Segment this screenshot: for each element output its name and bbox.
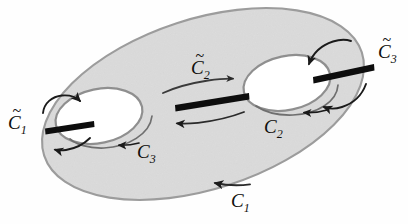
label-c-tilde-3-accent: ~ <box>383 32 392 48</box>
label-c-tilde-2-accent: ~ <box>196 48 205 64</box>
label-c-tilde-3: C~3 <box>378 42 397 61</box>
label-c-1: C1 <box>231 191 250 210</box>
label-c-tilde-1-sub: 1 <box>21 123 27 137</box>
label-c-tilde-1: C~1 <box>8 113 27 132</box>
label-c-3-base: C <box>137 142 150 161</box>
label-c-2: C2 <box>264 117 283 136</box>
label-c-tilde-2-sub: 2 <box>204 68 210 82</box>
label-c-1-base: C <box>231 191 244 210</box>
label-c-1-sub: 1 <box>244 201 250 215</box>
label-c-tilde-2: C~2 <box>191 58 210 77</box>
label-c-tilde-3-sub: 3 <box>391 52 397 66</box>
label-c-tilde-1-accent: ~ <box>13 103 22 119</box>
label-c-2-sub: 2 <box>277 127 283 141</box>
label-c-3-sub: 3 <box>150 152 156 166</box>
surface-diagram <box>0 0 408 224</box>
genus-two-surface-figure: C~1 C~2 C~3 C3 C2 C1 <box>0 0 408 224</box>
label-c-3: C3 <box>137 142 156 161</box>
label-c-2-base: C <box>264 117 277 136</box>
